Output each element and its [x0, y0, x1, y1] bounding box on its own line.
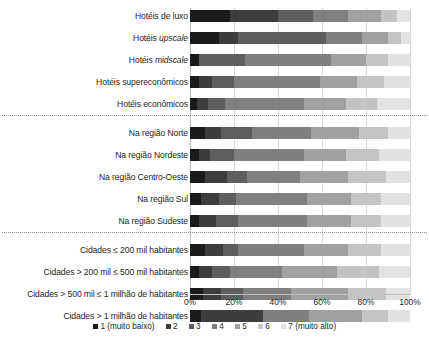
row-label: Hotéis supereconômicos — [4, 75, 188, 89]
legend-label: 7 (muito alto) — [288, 321, 336, 332]
legend-swatch-icon — [166, 324, 171, 329]
bar-segment-7 — [381, 244, 410, 256]
bar-row: Hotéis supereconômicos — [0, 75, 429, 89]
bar-segment-2 — [205, 127, 220, 139]
bar-segment-5 — [362, 32, 388, 44]
bar-segment-4 — [252, 127, 311, 139]
row-label: Na região Nordeste — [4, 148, 188, 162]
x-tick-label: 100% — [399, 297, 420, 308]
bar-segment-2 — [199, 149, 210, 161]
bar-segment-6 — [351, 215, 382, 227]
stacked-bar — [190, 149, 410, 161]
bar-segment-7 — [379, 266, 410, 278]
legend-item-3[interactable]: 3 — [189, 321, 201, 332]
row-label: Na região Sul — [4, 192, 188, 206]
bar-segment-4 — [225, 98, 304, 110]
legend-label: 4 — [219, 321, 224, 332]
legend-label: 2 — [173, 321, 178, 332]
bar-segment-4 — [234, 149, 304, 161]
bar-segment-4 — [238, 215, 306, 227]
bar-segment-1 — [190, 32, 219, 44]
bar-segment-3 — [212, 266, 230, 278]
bar-segment-4 — [313, 10, 348, 22]
stacked-bar — [190, 10, 410, 22]
bar-row: Na região Sudeste — [0, 214, 429, 228]
stacked-bar — [190, 215, 410, 227]
stacked-bar — [190, 244, 410, 256]
bar-row: Na região Nordeste — [0, 148, 429, 162]
x-tick-label: 20% — [226, 297, 243, 308]
row-label: Hotéis de luxo — [4, 9, 188, 23]
x-axis-line — [190, 294, 410, 295]
row-label: Cidades > 500 mil ≤ 1 milhão de habitant… — [4, 287, 188, 301]
stacked-bar — [190, 32, 410, 44]
bar-segment-6 — [346, 149, 379, 161]
bar-segment-3 — [219, 193, 237, 205]
bar-segment-1 — [190, 10, 230, 22]
bar-row: Na região Sul — [0, 192, 429, 206]
bar-segment-5 — [304, 98, 346, 110]
row-label: Hotéis econômicos — [4, 97, 188, 111]
legend-label: 6 — [265, 321, 270, 332]
stacked-bar-chart: Hotéis de luxoHotéis upscaleHotéis midsc… — [0, 0, 429, 345]
legend-swatch-icon — [189, 324, 194, 329]
bar-segment-3 — [212, 76, 234, 88]
bar-segment-1 — [190, 76, 199, 88]
x-tick-label: 0% — [184, 297, 196, 308]
bar-segment-5 — [320, 76, 357, 88]
bar-segment-7 — [388, 54, 410, 66]
bar-segment-5 — [307, 215, 351, 227]
legend-item-4[interactable]: 4 — [212, 321, 224, 332]
legend-swatch-icon — [281, 324, 286, 329]
bar-segment-5 — [304, 149, 346, 161]
x-tick-label: 40% — [270, 297, 287, 308]
bar-segment-5 — [300, 171, 348, 183]
stacked-bar — [190, 171, 410, 183]
bar-segment-1 — [190, 215, 199, 227]
legend-item-2[interactable]: 2 — [166, 321, 178, 332]
bar-segment-6 — [357, 76, 383, 88]
bar-segment-6 — [381, 10, 396, 22]
bar-segment-1 — [190, 149, 199, 161]
bar-row: Hotéis de luxo — [0, 9, 429, 23]
row-label: Na região Norte — [4, 126, 188, 140]
bar-segment-1 — [190, 244, 205, 256]
bar-segment-3 — [227, 171, 247, 183]
bar-segment-3 — [221, 127, 252, 139]
legend-label: 3 — [196, 321, 201, 332]
bar-segment-1 — [190, 54, 199, 66]
legend-item-1[interactable]: 1 (muito baixo) — [93, 321, 155, 332]
bar-segment-7 — [401, 32, 410, 44]
stacked-bar — [190, 193, 410, 205]
row-label: Cidades > 200 mil ≤ 500 mil habitantes — [4, 265, 188, 279]
bar-segment-2 — [197, 98, 208, 110]
bar-segment-4 — [326, 32, 361, 44]
bar-segment-3 — [210, 149, 234, 161]
bar-segment-6 — [348, 244, 381, 256]
bar-segment-6 — [348, 171, 385, 183]
bar-row: Hotéis econômicos — [0, 97, 429, 111]
bar-segment-1 — [190, 193, 201, 205]
legend-item-7[interactable]: 7 (muito alto) — [281, 321, 336, 332]
bar-segment-7 — [381, 193, 410, 205]
bar-segment-4 — [245, 54, 331, 66]
bar-segment-6 — [337, 266, 379, 278]
bar-segment-6 — [359, 127, 388, 139]
bar-segment-7 — [379, 149, 410, 161]
bar-segment-5 — [331, 54, 366, 66]
bar-segment-1 — [190, 127, 205, 139]
bar-segment-5 — [282, 266, 337, 278]
legend-item-6[interactable]: 6 — [258, 321, 270, 332]
legend-label: 1 (muito baixo) — [100, 321, 154, 332]
bar-segment-7 — [377, 98, 410, 110]
bar-row: Hotéis midscale — [0, 53, 429, 67]
group-separator — [2, 232, 427, 233]
stacked-bar — [190, 54, 410, 66]
bar-segment-3 — [199, 54, 245, 66]
row-label: Na região Centro-Oeste — [4, 170, 188, 184]
bar-segment-6 — [346, 98, 377, 110]
bar-segment-7 — [397, 10, 410, 22]
bar-segment-4 — [230, 266, 283, 278]
legend-item-5[interactable]: 5 — [235, 321, 247, 332]
legend-swatch-icon — [93, 324, 98, 329]
